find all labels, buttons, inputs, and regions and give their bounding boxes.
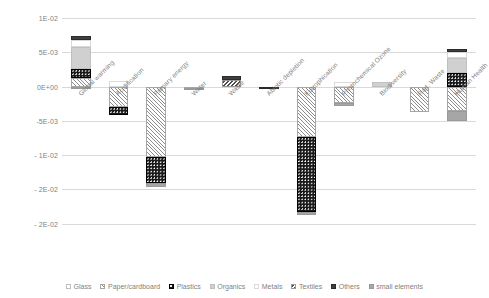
legend-swatch-icon bbox=[331, 284, 336, 289]
bar-group[interactable] bbox=[259, 18, 279, 258]
bar-segment-small[interactable] bbox=[447, 111, 467, 121]
legend-item-organics[interactable]: Organics bbox=[210, 283, 246, 290]
bar-group[interactable] bbox=[297, 18, 317, 258]
legend-item-paper[interactable]: Paper/cardboard bbox=[100, 283, 160, 290]
legend-item-metals[interactable]: Metals bbox=[254, 283, 282, 290]
bar-group[interactable] bbox=[410, 18, 430, 258]
legend-swatch-icon bbox=[169, 284, 174, 289]
bar-segment-others[interactable] bbox=[71, 36, 91, 40]
legend-swatch-icon bbox=[66, 284, 71, 289]
legend-label: Glass bbox=[74, 283, 92, 290]
legend-swatch-icon bbox=[100, 284, 105, 289]
bar-segment-small[interactable] bbox=[297, 212, 317, 215]
legend-label: Others bbox=[339, 283, 360, 290]
legend-label: small elements bbox=[376, 283, 423, 290]
y-axis-tick-label: - 1E-02 bbox=[34, 152, 58, 159]
bar-segment-organics[interactable] bbox=[447, 58, 467, 73]
bar-segment-plastics[interactable] bbox=[109, 107, 129, 115]
y-axis-tick-label: - 2E-02 bbox=[34, 220, 58, 227]
bar-group[interactable] bbox=[447, 18, 467, 258]
legend-item-glass[interactable]: Glass bbox=[66, 283, 91, 290]
y-axis-labels: 1E-025E-030E+00-5E-03- 1E-02- 2E-02- 2E-… bbox=[0, 18, 58, 258]
y-axis-tick-label: 0E+00 bbox=[37, 83, 58, 90]
bar-group[interactable] bbox=[109, 18, 129, 258]
bar-segment-plastics[interactable] bbox=[71, 69, 91, 78]
legend-item-textiles[interactable]: Textiles bbox=[291, 283, 322, 290]
y-axis-tick-label: 5E-03 bbox=[39, 49, 58, 56]
y-axis-tick-label: -5E-03 bbox=[36, 117, 58, 124]
y-axis-tick-label: - 2E-02 bbox=[34, 186, 58, 193]
y-axis-tick-label: 1E-02 bbox=[39, 15, 58, 22]
legend-swatch-icon bbox=[291, 284, 296, 289]
bar-segment-small[interactable] bbox=[146, 183, 166, 186]
bar-group[interactable] bbox=[146, 18, 166, 258]
bar-segment-plastics[interactable] bbox=[297, 137, 317, 212]
chart-legend: GlassPaper/cardboardPlasticsOrganicsMeta… bbox=[0, 283, 489, 290]
plot-area bbox=[62, 18, 476, 258]
chart-container: 1E-025E-030E+00-5E-03- 1E-02- 2E-02- 2E-… bbox=[0, 0, 489, 298]
legend-label: Metals bbox=[262, 283, 283, 290]
legend-swatch-icon bbox=[254, 284, 259, 289]
legend-item-plastics[interactable]: Plastics bbox=[169, 283, 201, 290]
legend-label: Textiles bbox=[299, 283, 322, 290]
bar-group[interactable] bbox=[184, 18, 204, 258]
bar-segment-paper[interactable] bbox=[146, 87, 166, 158]
bar-segment-organics[interactable] bbox=[71, 47, 91, 70]
legend-swatch-icon bbox=[210, 284, 215, 289]
bar-segment-others[interactable] bbox=[447, 49, 467, 52]
legend-item-small[interactable]: small elements bbox=[369, 283, 423, 290]
legend-item-others[interactable]: Others bbox=[331, 283, 360, 290]
bar-segment-metals[interactable] bbox=[447, 52, 467, 57]
legend-label: Plastics bbox=[177, 283, 201, 290]
legend-label: Paper/cardboard bbox=[108, 283, 160, 290]
bar-group[interactable] bbox=[222, 18, 242, 258]
bar-segment-plastics[interactable] bbox=[146, 157, 166, 183]
legend-swatch-icon bbox=[369, 284, 374, 289]
bar-group[interactable] bbox=[334, 18, 354, 258]
bar-group[interactable] bbox=[71, 18, 91, 258]
legend-label: Organics bbox=[217, 283, 245, 290]
bar-segment-small[interactable] bbox=[334, 103, 354, 106]
bar-segment-metals[interactable] bbox=[71, 40, 91, 47]
